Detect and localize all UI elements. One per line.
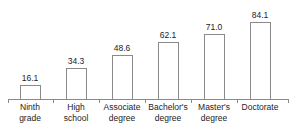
bar-rect[interactable] <box>66 68 87 100</box>
category-label-line: degree <box>187 113 241 124</box>
x-axis-line <box>8 99 289 100</box>
category-label-doctorate: Doctorate <box>233 102 287 113</box>
category-label-line: Doctorate <box>233 102 287 113</box>
bar-value-label: 71.0 <box>194 23 235 32</box>
bar-rect[interactable] <box>204 34 225 100</box>
bar-rect[interactable] <box>158 42 179 100</box>
category-axis: Ninth grade High school Associate degree… <box>0 102 296 133</box>
bar-rect[interactable] <box>250 22 271 100</box>
plot-area: 16.1 34.3 48.6 62.1 71.0 84.1 <box>0 0 296 100</box>
bar-value-label: 48.6 <box>102 44 143 53</box>
bar-rect[interactable] <box>20 85 41 100</box>
bar-rect[interactable] <box>112 55 133 100</box>
bar-value-label: 62.1 <box>148 31 189 40</box>
bar-chart: 16.1 34.3 48.6 62.1 71.0 84.1 <box>0 0 296 133</box>
bar-value-label: 16.1 <box>10 74 51 83</box>
bar-value-label: 84.1 <box>240 11 281 20</box>
bar-value-label: 34.3 <box>56 57 97 66</box>
